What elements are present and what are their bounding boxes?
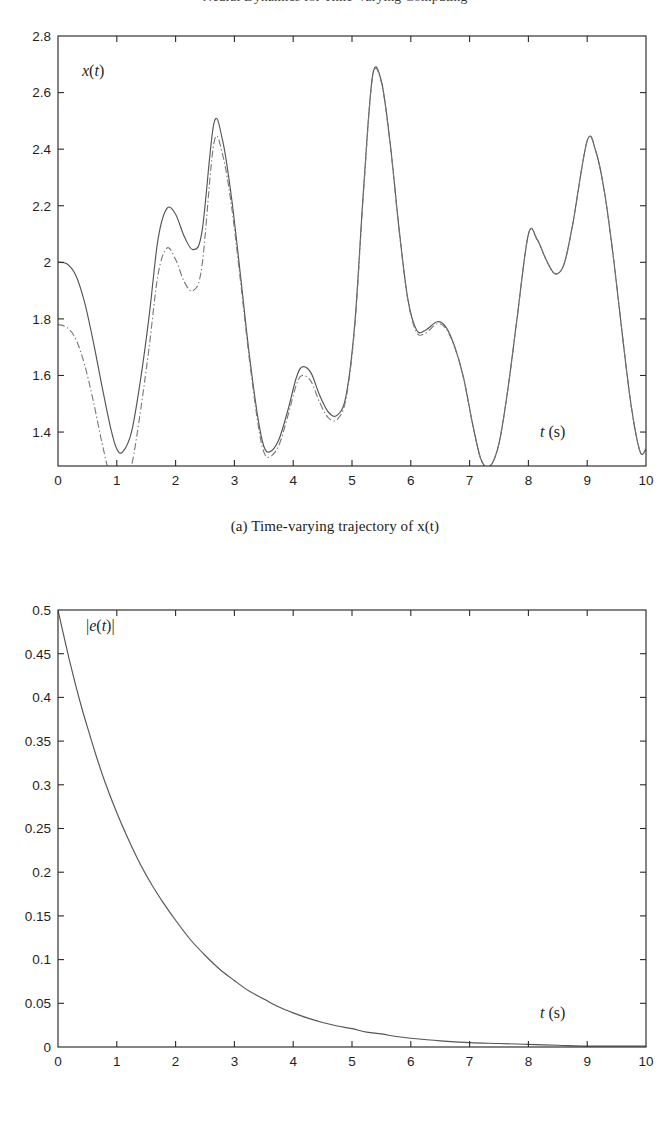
x-tick-label: 2: [172, 1054, 180, 1069]
x-tick-label: 3: [231, 1054, 239, 1069]
series-line-0: [58, 67, 646, 468]
y-variable-label: x(t): [81, 62, 104, 80]
x-tick-label: 0: [54, 1054, 62, 1069]
y-tick-label: 2.8: [32, 29, 51, 44]
y-tick-label: 0.35: [25, 734, 51, 749]
x-tick-label: 5: [348, 1054, 356, 1069]
y-tick-label: 0.2: [32, 865, 51, 880]
y-tick-label: 2.4: [32, 142, 51, 157]
y-tick-label: 0.3: [32, 778, 51, 793]
x-tick-label: 5: [348, 473, 356, 488]
axes-frame: [58, 36, 646, 466]
y-tick-label: 2.2: [32, 199, 51, 214]
x-tick-label: 1: [113, 473, 121, 488]
series-line-0: [58, 610, 646, 1046]
y-variable-label: |e(t)|: [86, 617, 115, 635]
y-tick-label: 2: [43, 255, 51, 270]
x-tick-label: 7: [466, 473, 474, 488]
x-tick-label: 1: [113, 1054, 121, 1069]
x-tick-label: 4: [289, 473, 297, 488]
x-axis-label: t (s): [540, 1004, 565, 1022]
caption-panel-a: (a) Time-varying trajectory of x(t): [0, 518, 670, 535]
figure-page: Neural Dynamics for Time-Varying Computi…: [0, 0, 670, 1129]
x-tick-label: 9: [583, 1054, 591, 1069]
y-tick-label: 0.1: [32, 952, 51, 967]
y-tick-label: 1.6: [32, 368, 51, 383]
panel-error: 01234567891000.050.10.150.20.250.30.350.…: [0, 575, 670, 1129]
x-tick-label: 8: [525, 1054, 533, 1069]
x-tick-label: 9: [583, 473, 591, 488]
x-tick-label: 8: [525, 473, 533, 488]
x-tick-label: 6: [407, 473, 415, 488]
y-tick-label: 0.5: [32, 603, 51, 618]
y-tick-label: 0.4: [32, 690, 51, 705]
x-tick-label: 6: [407, 1054, 415, 1069]
panel-trajectory: 0123456789101.41.61.822.22.42.62.8x(t)t …: [0, 0, 670, 555]
x-tick-label: 3: [231, 473, 239, 488]
y-tick-label: 0: [43, 1040, 51, 1055]
x-tick-label: 10: [638, 473, 653, 488]
curve-group: [58, 610, 646, 1046]
x-tick-label: 4: [289, 1054, 297, 1069]
error-plot: 01234567891000.050.10.150.20.250.30.350.…: [0, 575, 670, 1075]
caption-a-text: (a) Time-varying trajectory of x(t): [231, 518, 439, 534]
x-tick-label: 0: [54, 473, 62, 488]
y-tick-label: 1.8: [32, 312, 51, 327]
y-tick-label: 0.45: [25, 647, 51, 662]
x-tick-label: 7: [466, 1054, 474, 1069]
x-tick-label: 2: [172, 473, 180, 488]
y-tick-label: 0.05: [25, 996, 51, 1011]
y-tick-label: 1.4: [32, 425, 51, 440]
trajectory-plot: 0123456789101.41.61.822.22.42.62.8x(t)t …: [0, 0, 670, 500]
axes-frame: [58, 610, 646, 1047]
y-tick-label: 0.15: [25, 909, 51, 924]
x-tick-label: 10: [638, 1054, 653, 1069]
x-axis-label: t (s): [540, 423, 565, 441]
y-tick-label: 0.25: [25, 821, 51, 836]
y-tick-label: 2.6: [32, 85, 51, 100]
